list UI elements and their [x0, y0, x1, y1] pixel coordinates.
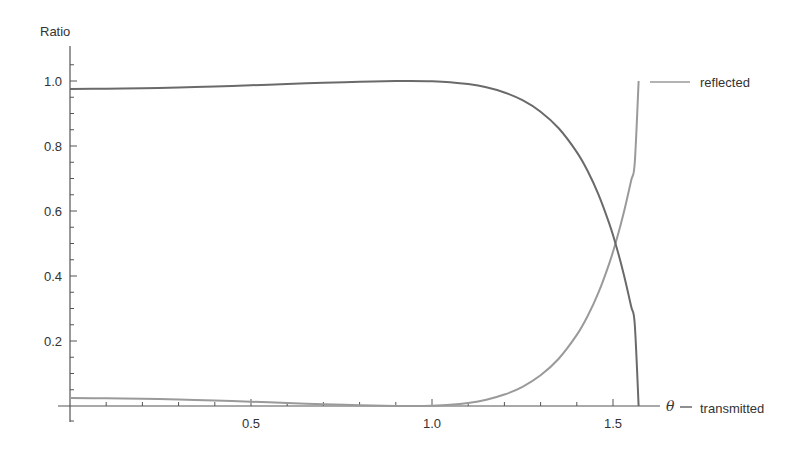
reflected-curve	[70, 81, 639, 406]
y-ticks: 0.20.40.60.81.0	[44, 65, 77, 421]
legend-label-transmitted: transmitted	[700, 401, 764, 416]
y-tick-label: 0.4	[44, 269, 62, 284]
x-tick-label: 0.5	[242, 416, 260, 431]
fresnel-ratio-chart: 0.20.40.60.81.0 0.51.01.5 Ratio θ reflec…	[0, 0, 812, 455]
x-tick-label: 1.0	[423, 416, 441, 431]
legend-label-reflected: reflected	[700, 75, 750, 90]
y-tick-label: 0.2	[44, 334, 62, 349]
y-axis-title: Ratio	[40, 24, 70, 39]
transmitted-curve	[70, 81, 639, 406]
y-tick-label: 1.0	[44, 74, 62, 89]
y-tick-label: 0.8	[44, 139, 62, 154]
legend: reflected transmitted	[650, 75, 764, 416]
x-axis-title: θ	[666, 398, 675, 414]
y-tick-label: 0.6	[44, 204, 62, 219]
legend-item-transmitted: transmitted	[680, 401, 764, 416]
x-ticks: 0.51.01.5	[106, 399, 622, 431]
series	[70, 81, 639, 406]
x-tick-label: 1.5	[604, 416, 622, 431]
legend-item-reflected: reflected	[650, 75, 750, 90]
axes: 0.20.40.60.81.0 0.51.01.5 Ratio θ	[40, 24, 675, 431]
